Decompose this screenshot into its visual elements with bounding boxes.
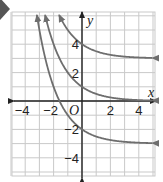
y-axis-label: y bbox=[85, 13, 94, 28]
y-tick-label: 4 bbox=[72, 37, 79, 52]
curves bbox=[37, 15, 152, 143]
x-tick-label: −4 bbox=[15, 103, 30, 118]
origin-label: O bbox=[69, 103, 79, 118]
y-tick-label: 2 bbox=[72, 66, 79, 81]
marker-diamond bbox=[0, 0, 10, 20]
curve-lower bbox=[37, 15, 152, 143]
x-tick-label: 2 bbox=[107, 103, 114, 118]
y-tick-label: −4 bbox=[64, 151, 79, 166]
graph: −4−22442−2−4Oxy bbox=[0, 0, 163, 182]
x-tick-label: 4 bbox=[135, 103, 142, 118]
x-axis-label: x bbox=[147, 85, 155, 100]
axes bbox=[14, 12, 156, 178]
grid bbox=[11, 12, 155, 176]
y-tick-label: −2 bbox=[64, 122, 79, 137]
x-tick-label: −2 bbox=[43, 103, 58, 118]
